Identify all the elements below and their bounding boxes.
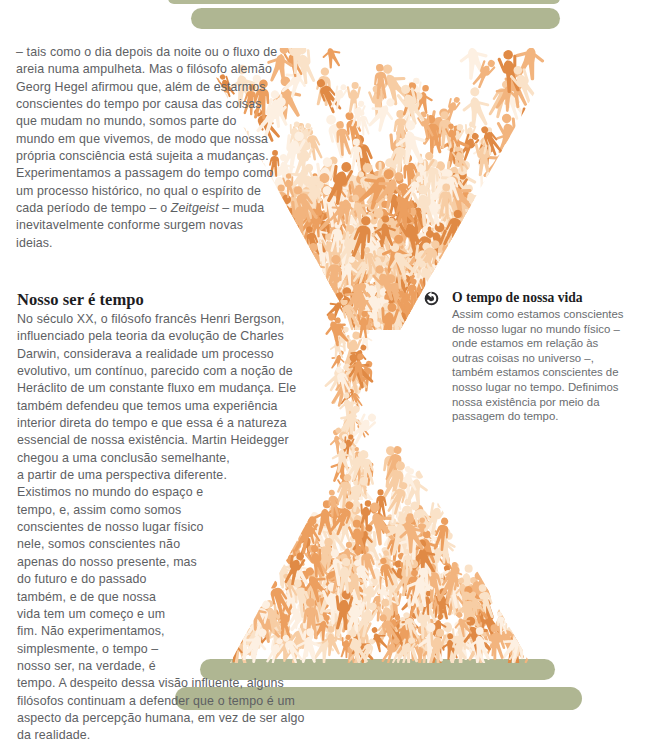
- crowd-figure: [425, 571, 456, 615]
- crowd-figure: [398, 624, 420, 664]
- crowd-figure: [356, 296, 366, 320]
- crowd-figure: [395, 213, 420, 249]
- crowd-figure: [458, 85, 493, 129]
- crowd-figure: [319, 39, 344, 70]
- crowd-figure: [441, 94, 462, 122]
- crowd-figure: [413, 193, 431, 230]
- crowd-figure: [413, 567, 445, 611]
- crowd-figure: [499, 84, 527, 121]
- crowd-figure: [342, 264, 355, 290]
- crowd-figure: [332, 290, 354, 320]
- crowd-figure: [342, 460, 361, 488]
- crowd-figure: [332, 317, 347, 346]
- crowd-figure: [377, 306, 404, 338]
- crowd-figure: [326, 195, 354, 227]
- crowd-figure: [451, 575, 477, 605]
- crowd-figure: [386, 127, 410, 172]
- crowd-figure: [456, 35, 492, 81]
- crowd-figure: [326, 489, 340, 517]
- crowd-figure: [354, 418, 371, 438]
- crowd-figure: [352, 599, 380, 639]
- crowd-figure: [396, 302, 411, 330]
- crowd-figure: [381, 234, 411, 275]
- crowd-figure: [435, 570, 456, 610]
- crowd-figure: [352, 317, 378, 346]
- crowd-figure: [505, 625, 524, 665]
- crowd-figure: [388, 193, 419, 229]
- crowd-figure: [367, 283, 398, 322]
- crowd-figure: [369, 306, 402, 346]
- crowd-figure: [336, 558, 353, 594]
- crowd-figure: [446, 138, 463, 165]
- crowd-figure: [347, 577, 371, 610]
- crowd-figure: [385, 518, 400, 550]
- crowd-figure: [336, 518, 354, 543]
- crowd-figure: [357, 329, 373, 351]
- crowd-figure: [493, 596, 515, 630]
- crowd-figure: [387, 467, 413, 502]
- crowd-figure: [464, 589, 488, 617]
- crowd-figure: [348, 232, 373, 262]
- crowd-figure: [395, 237, 421, 278]
- crowd-figure: [365, 306, 397, 348]
- crowd-figure: [350, 279, 380, 313]
- crowd-figure: [374, 291, 391, 323]
- crowd-figure: [437, 171, 481, 221]
- crowd-figure: [432, 589, 445, 618]
- crowd-figure: [389, 254, 410, 290]
- crowd-figure: [394, 635, 417, 666]
- crowd-figure: [507, 637, 528, 663]
- crowd-figure: [455, 612, 497, 659]
- crowd-figure: [332, 325, 353, 352]
- crowd-figure: [370, 175, 395, 212]
- crowd-figure: [358, 253, 398, 300]
- crowd-figure: [485, 623, 507, 661]
- crowd-figure: [331, 442, 354, 474]
- crowd-figure: [348, 376, 363, 409]
- crowd-figure: [321, 260, 343, 294]
- crowd-figure: [350, 483, 369, 507]
- crowd-figure: [328, 566, 347, 594]
- crowd-figure: [437, 111, 453, 149]
- crowd-figure: [417, 629, 436, 665]
- crowd-figure: [349, 311, 365, 346]
- crowd-figure: [423, 232, 448, 269]
- crowd-figure: [351, 253, 375, 286]
- crowd-figure: [454, 194, 477, 223]
- crowd-figure: [418, 224, 447, 266]
- crowd-figure: [333, 186, 364, 229]
- crowd-figure: [475, 171, 496, 208]
- crowd-figure: [352, 279, 388, 325]
- crowd-figure: [335, 254, 360, 286]
- crowd-figure: [342, 330, 364, 367]
- crowd-figure: [343, 594, 366, 636]
- crowd-figure: [413, 242, 442, 274]
- crowd-figure: [331, 240, 344, 266]
- crowd-figure: [400, 276, 418, 311]
- crowd-figure: [379, 635, 402, 666]
- crowd-figure: [495, 611, 508, 635]
- crowd-figure: [320, 274, 345, 303]
- crowd-figure: [387, 589, 402, 622]
- crowd-figure: [403, 242, 446, 288]
- crowd-figure: [460, 583, 490, 624]
- crowd-figure: [372, 200, 397, 234]
- crowd-figure: [371, 316, 392, 351]
- crowd-figure: [387, 278, 419, 316]
- crowd-figure: [329, 584, 351, 613]
- crowd-figure: [328, 499, 358, 537]
- crowd-figure: [333, 239, 355, 278]
- crowd-figure: [426, 627, 447, 665]
- crowd-figure: [395, 288, 420, 320]
- crowd-figure: [366, 211, 403, 252]
- crowd-figure: [391, 556, 422, 598]
- crowd-figure: [342, 551, 353, 575]
- crowd-figure: [350, 157, 398, 209]
- crowd-figure: [432, 216, 474, 265]
- crowd-figure: [437, 183, 454, 220]
- zeitgeist-term: Zeitgeist: [171, 201, 219, 215]
- crowd-figure: [331, 376, 351, 407]
- crowd-figure: [395, 551, 419, 584]
- crowd-figure: [409, 200, 430, 228]
- crowd-figure: [327, 281, 360, 322]
